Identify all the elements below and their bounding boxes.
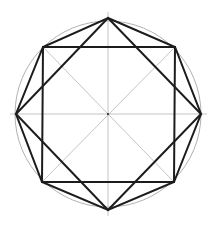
geometric-construction-diagram [0,0,211,229]
center-point [107,113,109,115]
